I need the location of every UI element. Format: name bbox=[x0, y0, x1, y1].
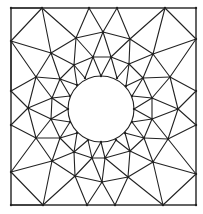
mesh-edge bbox=[52, 152, 74, 161]
mesh-edge bbox=[88, 140, 92, 158]
mesh-edge bbox=[152, 109, 178, 119]
triangular-mesh-diagram bbox=[0, 0, 203, 214]
mesh-edge bbox=[102, 158, 105, 182]
mesh-node bbox=[51, 97, 53, 99]
mesh-node bbox=[114, 204, 116, 206]
mesh-edge bbox=[76, 38, 93, 57]
mesh-node bbox=[116, 77, 118, 79]
mesh-edge bbox=[111, 57, 117, 78]
mesh-edge bbox=[170, 77, 196, 91]
mesh-edge bbox=[153, 54, 170, 77]
mesh-node bbox=[76, 132, 78, 134]
mesh-edge bbox=[11, 91, 28, 108]
mesh-node bbox=[167, 138, 169, 140]
mesh-node bbox=[73, 64, 75, 66]
mesh-node bbox=[100, 141, 102, 143]
mesh-node bbox=[10, 40, 12, 42]
mesh-edge bbox=[152, 98, 178, 109]
mesh-node bbox=[169, 76, 171, 78]
mesh-node bbox=[128, 63, 130, 65]
mesh-edge bbox=[36, 77, 60, 79]
mesh-edge bbox=[101, 57, 111, 76]
mesh-edge bbox=[130, 8, 165, 39]
mesh-node bbox=[73, 151, 75, 153]
mesh-edge bbox=[102, 182, 115, 205]
mesh-edge bbox=[75, 176, 102, 182]
mesh-node bbox=[195, 173, 197, 175]
mesh-node bbox=[143, 137, 145, 139]
mesh-edge bbox=[103, 32, 130, 39]
mesh-node bbox=[152, 53, 154, 55]
mesh-edge bbox=[51, 109, 68, 119]
mesh-node bbox=[115, 139, 117, 141]
mesh-edge bbox=[170, 39, 196, 77]
mesh-node bbox=[151, 97, 153, 99]
mesh-node bbox=[131, 95, 133, 97]
mesh-node bbox=[10, 90, 12, 92]
mesh-edge bbox=[11, 41, 51, 53]
mesh-edge bbox=[92, 142, 101, 158]
mesh-node bbox=[10, 124, 12, 126]
mesh-edge bbox=[153, 162, 196, 174]
mesh-node bbox=[195, 204, 197, 206]
mesh-node bbox=[142, 77, 144, 79]
mesh-node bbox=[41, 7, 43, 9]
mesh-node bbox=[195, 38, 197, 40]
mesh-edge bbox=[103, 8, 117, 32]
mesh-edge bbox=[36, 53, 51, 77]
mesh-edge bbox=[134, 98, 152, 109]
mesh-edge bbox=[105, 158, 128, 177]
mesh-node bbox=[162, 204, 164, 206]
mesh-edge bbox=[128, 162, 153, 177]
mesh-node bbox=[100, 75, 102, 77]
mesh-node bbox=[50, 118, 52, 120]
mesh-node bbox=[92, 56, 94, 58]
mesh-edge bbox=[153, 139, 168, 162]
mesh-edge bbox=[129, 64, 143, 78]
mesh-node bbox=[50, 52, 52, 54]
mesh-edge bbox=[93, 32, 103, 57]
mesh-edge bbox=[28, 108, 36, 138]
mesh-node bbox=[10, 7, 12, 9]
mesh-edge bbox=[52, 96, 70, 98]
mesh-node bbox=[129, 38, 131, 40]
mesh-node bbox=[84, 77, 86, 79]
mesh-node bbox=[69, 95, 71, 97]
mesh-node bbox=[27, 107, 29, 109]
mesh-node bbox=[69, 121, 71, 123]
mesh-edge bbox=[51, 38, 76, 53]
mesh-node bbox=[164, 7, 166, 9]
mesh-edge bbox=[178, 109, 196, 125]
mesh-edge bbox=[36, 119, 51, 138]
mesh-node bbox=[116, 7, 118, 9]
mesh-edge bbox=[28, 108, 51, 119]
mesh-edge bbox=[11, 125, 36, 138]
mesh-edge bbox=[143, 78, 152, 98]
mesh-edge bbox=[28, 77, 36, 108]
mesh-edge bbox=[152, 77, 170, 98]
mesh-node bbox=[177, 108, 179, 110]
mesh-edge bbox=[74, 38, 76, 65]
mesh-edge bbox=[51, 119, 70, 122]
mesh-edge bbox=[117, 8, 130, 39]
mesh-node bbox=[131, 121, 133, 123]
mesh-edge bbox=[132, 96, 152, 98]
mesh-node bbox=[152, 161, 154, 163]
mesh-edge bbox=[103, 32, 111, 57]
mesh-node bbox=[127, 176, 129, 178]
mesh-edge bbox=[152, 119, 168, 139]
mesh-edge bbox=[178, 91, 196, 109]
mesh-node bbox=[42, 204, 44, 206]
mesh-node bbox=[76, 84, 78, 86]
mesh-edge bbox=[93, 57, 101, 76]
mesh-node bbox=[67, 108, 69, 110]
mesh-node bbox=[101, 181, 103, 183]
mesh-edge bbox=[153, 39, 196, 54]
mesh-edge bbox=[60, 138, 74, 152]
mesh-node bbox=[195, 7, 197, 9]
mesh-edge bbox=[36, 138, 52, 161]
mesh-edge bbox=[102, 177, 128, 182]
mesh-edge bbox=[168, 139, 196, 174]
mesh-node bbox=[133, 108, 135, 110]
mesh-edge bbox=[89, 8, 103, 32]
